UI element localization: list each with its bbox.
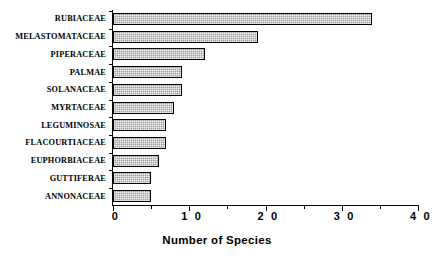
species-bar-chart: RUBIACEAEMELASTOMATACEAEPIPERACEAEPALMAE… (0, 0, 434, 262)
x-axis-tick-minor (151, 206, 152, 209)
bar (113, 137, 166, 149)
category-label: LEGUMINOSAE (41, 121, 106, 130)
category-label: GUTTIFERAE (50, 174, 106, 183)
bar (113, 13, 372, 25)
category-label: ANNONACEAE (45, 192, 106, 201)
bar (113, 66, 182, 78)
bar (113, 31, 258, 43)
y-axis-line (112, 10, 113, 206)
x-axis-tick-label: 1 0 (181, 210, 203, 222)
category-label: MELASTOMATACEAE (15, 32, 106, 41)
bar (113, 48, 205, 60)
category-label: PIPERACEAE (51, 50, 106, 59)
plot-area (113, 10, 418, 205)
category-axis-labels: RUBIACEAEMELASTOMATACEAEPIPERACEAEPALMAE… (0, 10, 110, 205)
bar (113, 172, 151, 184)
category-label: MYRTACEAE (51, 103, 106, 112)
category-label: RUBIACEAE (55, 14, 106, 23)
bar (113, 155, 159, 167)
x-axis-title: Number of Species (0, 234, 434, 246)
x-axis-tick-label: 4 0 (410, 210, 432, 222)
bar (113, 102, 174, 114)
bar (113, 190, 151, 202)
x-axis-tick-label: 0 (112, 210, 120, 222)
x-axis-tick-label: 2 0 (258, 210, 280, 222)
category-label: EUPHORBIACEAE (31, 156, 106, 165)
category-label: FLACOURTIACEAE (25, 138, 106, 147)
x-axis-tick-minor (304, 206, 305, 209)
x-axis-tick-minor (227, 206, 228, 209)
bar (113, 84, 182, 96)
bar (113, 119, 166, 131)
category-label: SOLANACEAE (47, 85, 106, 94)
x-axis-tick-label: 3 0 (334, 210, 356, 222)
category-label: PALMAE (70, 68, 106, 77)
x-axis-tick-minor (380, 206, 381, 209)
